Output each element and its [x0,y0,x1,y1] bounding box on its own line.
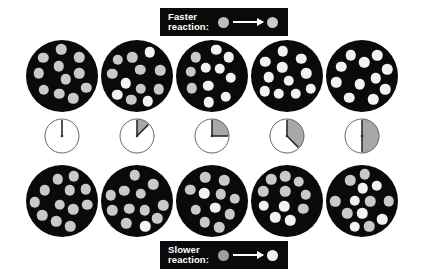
clock-1 [119,118,155,154]
reactant-particle [129,170,140,181]
product-particle [279,201,290,212]
product-particle [200,63,211,74]
reactant-particle [81,82,92,93]
product-particle [264,72,275,83]
reactant-particle [330,196,341,207]
product-particle [370,73,381,84]
reactant-particle [74,68,85,79]
faster-vessel-2 [176,40,248,112]
reactant-particle [82,199,93,210]
product-particle [296,53,307,64]
product-particle [368,94,379,105]
reactant-particle [135,83,146,94]
reactant-particle [266,174,277,185]
reactant-particle [293,177,304,188]
reactant-particle [39,84,50,95]
product-particle [203,97,214,108]
reactant-particle [214,222,225,233]
product-particle [346,50,357,61]
slower-right-arrow-icon [233,254,263,256]
reactant-particle [124,203,135,214]
reactant-particle [53,174,64,185]
product-particle [215,63,226,74]
product-particle [274,88,285,99]
product-particle [349,196,360,207]
reactant-particle [68,204,79,215]
product-particle [225,73,236,84]
reactant-particle [191,204,202,215]
slower-vessel-1 [101,165,173,237]
reactant-particle [56,44,67,55]
faster-vessel-1 [101,40,173,112]
reactant-particle [140,205,151,216]
reactant-particle [40,185,51,196]
reactant-particle [280,186,291,197]
faster-reactant-dot [218,17,229,28]
product-particle [210,202,221,213]
product-particle [355,79,366,90]
product-particle [357,183,368,194]
faster-vessel-0 [26,40,98,112]
slower-vessel-4 [326,165,398,237]
reactant-particle [186,66,197,77]
slower-reaction-equation [218,250,278,261]
product-particle [344,93,355,104]
product-particle [142,96,153,107]
reactant-particle [200,217,211,228]
faster-vessel-4 [326,40,398,112]
reactant-particle [135,64,146,75]
product-particle [259,200,270,211]
reactant-particle [298,204,309,215]
clock-elapsed-wedge [362,119,379,153]
reactant-particle [158,200,169,211]
reactant-particle [119,186,130,197]
reactant-particle [74,52,85,63]
slower-vessel-2 [176,165,248,237]
reactant-particle [190,52,201,63]
reactant-particle [154,84,165,95]
clock-2 [194,118,230,154]
reactant-particle [365,196,376,207]
reactant-particle [364,221,375,232]
reactant-particle [300,189,311,200]
product-particle [260,56,271,67]
product-particle [112,90,123,101]
reactant-particle [106,190,117,201]
reactant-particle [383,196,394,207]
reactant-particle [215,189,226,200]
reactant-particle [33,68,44,79]
product-particle [283,75,294,86]
reactant-particle [186,83,197,94]
product-particle [144,47,155,58]
faster-right-arrow-icon [233,21,263,23]
product-particle [259,86,270,97]
faster-product-dot [267,17,278,28]
reactant-particle [38,53,49,64]
faster-reaction-label: Faster reaction: [160,8,288,36]
reactant-particle [219,175,230,186]
product-particle [336,61,347,72]
product-particle [380,84,391,95]
reactant-particle [148,179,159,190]
slower-reactant-dot [218,250,229,261]
faster-reaction-label-text: Faster reaction: [168,12,209,33]
slower-reaction-label: Slower reaction: [160,241,288,269]
faster-reaction-equation [218,17,278,28]
clock-3 [269,118,305,154]
product-particle [223,52,234,63]
reactant-particle [152,213,163,224]
reactant-particle [68,93,79,104]
product-particle [349,222,360,233]
product-particle [270,212,281,223]
product-particle [199,188,210,199]
reactant-particle [107,205,118,216]
product-particle [377,214,388,225]
reactant-particle [30,197,41,208]
product-particle [305,83,316,94]
reactant-particle [51,216,62,227]
reaction-rate-diagram: Faster reaction: Slower reaction: [0,0,437,276]
reactant-particle [258,186,269,197]
reactant-particle [107,68,118,79]
reactant-particle [127,52,138,63]
reactant-particle [54,89,65,100]
